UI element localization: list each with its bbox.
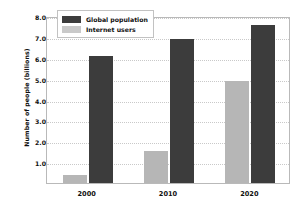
bar-2010-global-population	[170, 39, 194, 183]
x-tick-label: 2000	[57, 190, 117, 198]
bar-2010-internet-users	[144, 151, 168, 183]
legend-swatch-icon	[62, 26, 81, 33]
legend-swatch-icon	[62, 16, 81, 23]
x-tick-label: 2020	[219, 190, 279, 198]
y-tick-label: 8.0	[20, 14, 46, 21]
bar-chart-figure: Number of people (billions) 1.02.03.04.0…	[0, 0, 302, 216]
y-tick-label: 4.0	[20, 97, 46, 104]
legend-item: Internet users	[62, 24, 148, 34]
y-tick-label: 1.0	[20, 160, 46, 167]
bar-2020-global-population	[251, 25, 275, 183]
bar-2020-internet-users	[225, 81, 249, 183]
chart-legend: Global populationInternet users	[57, 10, 154, 38]
legend-label: Internet users	[86, 26, 136, 33]
x-tick-label: 2010	[138, 190, 198, 198]
legend-item: Global population	[62, 14, 148, 24]
y-tick-label: 6.0	[20, 55, 46, 62]
bar-2000-internet-users	[63, 175, 87, 183]
y-tick-label: 7.0	[20, 34, 46, 41]
legend-label: Global population	[86, 16, 148, 23]
y-tick-label: 5.0	[20, 76, 46, 83]
y-tick-label: 3.0	[20, 118, 46, 125]
bar-2000-global-population	[89, 56, 113, 183]
plot-area	[46, 17, 290, 184]
y-tick-label: 2.0	[20, 139, 46, 146]
